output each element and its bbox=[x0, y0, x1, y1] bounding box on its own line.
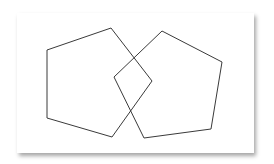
pentagon-diagram bbox=[0, 0, 274, 164]
left-pentagon bbox=[47, 28, 152, 137]
right-pentagon bbox=[114, 31, 222, 138]
